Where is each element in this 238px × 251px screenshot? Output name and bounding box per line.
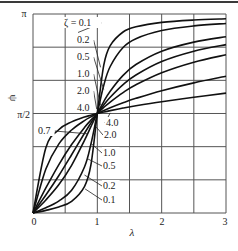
curve-label: 1.0 — [77, 68, 90, 79]
y-axis-label: ψ — [8, 95, 20, 102]
x-tick-2: 2 — [160, 216, 165, 227]
x-tick-3: 3 — [223, 216, 228, 227]
phase-response-chart: ζ = 0.10.20.51.02.04.00.74.02.01.00.50.2… — [0, 0, 238, 251]
grid — [33, 14, 226, 213]
curve-label: 4.0 — [77, 102, 90, 113]
y-tick-half-pi: π/2 — [17, 109, 30, 120]
curve-label: 0.2 — [103, 180, 116, 191]
leader-line — [87, 159, 102, 166]
x-tick-1: 1 — [95, 216, 100, 227]
y-tick-pi: π — [21, 8, 26, 19]
x-tick-0: 0 — [32, 216, 37, 227]
curve-label: 0.7 — [38, 125, 51, 136]
leader-line — [85, 189, 102, 200]
curve-label: 0.5 — [103, 160, 116, 171]
curve-label: ζ = 0.1 — [64, 17, 91, 29]
curve-label: 4.0 — [106, 117, 119, 128]
curve-label: 2.0 — [104, 129, 117, 140]
leader-line — [94, 91, 97, 109]
curve-label: 0.5 — [77, 51, 90, 62]
curve-label: 2.0 — [77, 85, 90, 96]
curve-label: 1.0 — [103, 147, 116, 158]
curve-label: 0.1 — [103, 194, 116, 205]
curve-label: 0.2 — [77, 34, 90, 45]
x-axis-label: λ — [129, 226, 135, 238]
